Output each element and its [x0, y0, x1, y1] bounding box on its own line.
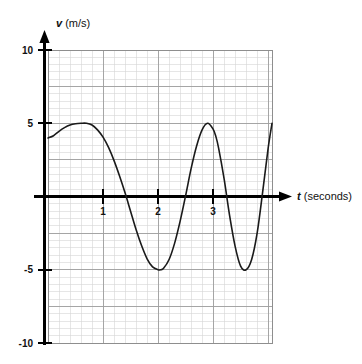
- chart-canvas: 105-5-10 123 v (m/s) t (seconds): [0, 0, 362, 364]
- y-axis-title-unit: (m/s): [62, 17, 90, 29]
- y-axis-title: v (m/s): [56, 17, 90, 29]
- x-tick-label-1: 2: [155, 206, 161, 217]
- y-tick-label-2: -5: [24, 264, 33, 275]
- y-tick-label-3: -10: [19, 338, 34, 349]
- x-tick-label-2: 3: [210, 206, 216, 217]
- x-tick-label-0: 1: [100, 206, 106, 217]
- x-axis-title-unit: (seconds): [301, 190, 352, 202]
- x-axis-title: t (seconds): [297, 190, 352, 202]
- y-tick-label-1: 5: [27, 118, 33, 129]
- y-tick-label-0: 10: [22, 45, 34, 56]
- velocity-time-figure: 105-5-10 123 v (m/s) t (seconds): [0, 0, 362, 364]
